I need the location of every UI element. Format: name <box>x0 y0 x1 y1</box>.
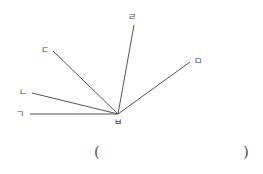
vertex-label-bieup: ㅂ <box>114 117 122 127</box>
ray-line <box>118 25 134 114</box>
answer-close-paren: ) <box>243 143 249 161</box>
ray-line <box>118 62 190 114</box>
ray-label-giyeok: ㄱ <box>16 109 24 119</box>
ray-label-nieun: ㄴ <box>19 87 27 97</box>
ray-label-mieum: ㅁ <box>194 56 202 66</box>
ray-label-digeut: ㄷ <box>41 45 49 55</box>
rays <box>30 25 190 114</box>
ray-line <box>32 93 118 114</box>
answer-blank[interactable] <box>105 143 239 161</box>
ray-label-rieul: ㄹ <box>128 12 136 22</box>
answer-open-paren: ( <box>94 143 100 161</box>
ray-line <box>53 51 118 114</box>
